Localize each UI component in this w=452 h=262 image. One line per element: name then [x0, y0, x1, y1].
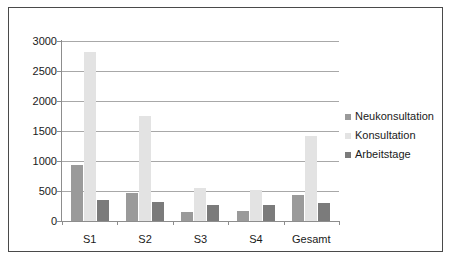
y-axis-tick-label: 0: [13, 216, 57, 227]
bar[interactable]: [237, 211, 249, 221]
legend-item-label: Arbeitstage: [355, 149, 411, 160]
bar[interactable]: [207, 205, 219, 221]
x-axis-tick-label: S3: [194, 234, 207, 245]
legend-swatch-icon: [345, 114, 351, 120]
legend-swatch-icon: [345, 152, 351, 158]
x-axis-tick-label: S1: [83, 234, 96, 245]
y-axis-tick-mark: [57, 191, 61, 192]
y-axis-tick-label: 500: [13, 186, 57, 197]
plot-area: [62, 41, 339, 221]
bar[interactable]: [194, 188, 206, 221]
bar-group: [62, 41, 117, 221]
chart-figure: 050010001500200025003000 S1S2S3S4Gesamt …: [0, 0, 452, 262]
y-axis-tick-mark: [57, 101, 61, 102]
y-axis-tick-mark: [57, 71, 61, 72]
x-axis-tick-label: S4: [249, 234, 262, 245]
bar[interactable]: [181, 212, 193, 221]
y-axis-tick-label: 2500: [13, 66, 57, 77]
bar[interactable]: [139, 116, 151, 221]
y-axis-tick-label: 2000: [13, 96, 57, 107]
legend-item-label: Konsultation: [355, 130, 416, 141]
chart-frame: 050010001500200025003000 S1S2S3S4Gesamt …: [8, 7, 443, 252]
bar[interactable]: [126, 193, 138, 222]
y-axis-tick-labels: 050010001500200025003000: [9, 41, 57, 221]
bar-group: [284, 41, 339, 221]
bar[interactable]: [71, 165, 83, 221]
bar[interactable]: [292, 195, 304, 221]
x-axis-tick-label: S2: [138, 234, 151, 245]
y-axis-tick-mark: [57, 41, 61, 42]
x-axis-tick-mark: [284, 221, 285, 225]
y-axis-tick-label: 3000: [13, 36, 57, 47]
bar-group: [117, 41, 172, 221]
legend-item[interactable]: Arbeitstage: [345, 145, 445, 164]
x-axis-tick-mark: [117, 221, 118, 225]
bar[interactable]: [97, 200, 109, 221]
bar-group: [228, 41, 283, 221]
legend-item[interactable]: Neukonsultation: [345, 107, 445, 126]
bar-group: [173, 41, 228, 221]
y-axis-tick-label: 1500: [13, 126, 57, 137]
y-axis-tick-label: 1000: [13, 156, 57, 167]
chart-legend: NeukonsultationKonsultationArbeitstage: [345, 107, 445, 164]
y-axis-tick-mark: [57, 131, 61, 132]
x-axis-tick-label: Gesamt: [292, 234, 331, 245]
bar[interactable]: [305, 136, 317, 221]
legend-swatch-icon: [345, 133, 351, 139]
y-axis-tick-mark: [57, 221, 61, 222]
x-axis-tick-labels: S1S2S3S4Gesamt: [62, 227, 339, 245]
x-axis-tick-mark: [339, 221, 340, 225]
bar[interactable]: [318, 203, 330, 221]
x-axis-tick-mark: [62, 221, 63, 225]
x-axis-tick-mark: [173, 221, 174, 225]
y-axis-tick-mark: [57, 161, 61, 162]
x-axis-tick-mark: [228, 221, 229, 225]
bar[interactable]: [263, 205, 275, 221]
x-axis-line: [62, 221, 340, 222]
legend-item[interactable]: Konsultation: [345, 126, 445, 145]
bar[interactable]: [250, 190, 262, 221]
bar[interactable]: [84, 52, 96, 221]
bar[interactable]: [152, 202, 164, 221]
legend-item-label: Neukonsultation: [355, 111, 434, 122]
